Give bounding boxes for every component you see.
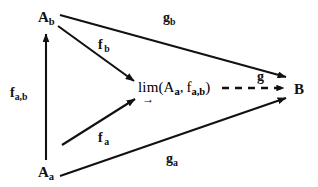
edge-label-g-a-sub: a [173, 157, 178, 168]
edge-label-g-base: g [257, 69, 264, 84]
edge-label-f-a-sub: a [104, 136, 109, 147]
edge-label-g-b: gb [163, 11, 175, 27]
node-A-b-base: A [38, 9, 49, 25]
node-A-a-base: A [38, 164, 49, 180]
edge-f-b-line [58, 26, 134, 81]
edge-label-f-ab-sub: a,b [15, 91, 28, 102]
edge-label-f-b: fb [98, 38, 110, 54]
node-B-base: B [294, 81, 304, 97]
node-B: B [294, 82, 304, 97]
node-A-b-sub: b [49, 16, 55, 27]
colimit-arg2-sub: a,b [191, 86, 205, 97]
edge-label-f-b-base: f [98, 37, 103, 52]
colimit-close-paren: ) [205, 79, 210, 95]
edge-label-g-b-base: g [163, 10, 170, 25]
commutative-diagram: A_b (vertical, pointing up) --> colim (d… [0, 0, 318, 187]
edge-label-f-a-base: f [98, 130, 103, 145]
node-colimit: lim → (Aa, fa,b) [138, 80, 210, 97]
colimit-arguments: (Aa, fa,b) [159, 80, 211, 97]
colimit-arg1-base: A [164, 79, 175, 95]
edge-label-g-b-sub: b [170, 16, 175, 27]
colimit-direction-arrow-icon: → [138, 93, 159, 105]
node-A-b: Ab [38, 10, 55, 27]
edge-label-g-a: ga [166, 152, 178, 168]
edge-label-g: g [257, 70, 264, 84]
node-A-a: Aa [38, 165, 54, 182]
node-A-a-sub: a [49, 171, 54, 182]
colimit-operator-stack: lim → [138, 80, 159, 95]
edge-label-g-a-base: g [166, 151, 173, 166]
edge-label-f-a: fa [98, 131, 109, 147]
edge-label-f-b-sub: b [104, 43, 109, 54]
edge-label-f-ab: fa,b [10, 86, 27, 102]
